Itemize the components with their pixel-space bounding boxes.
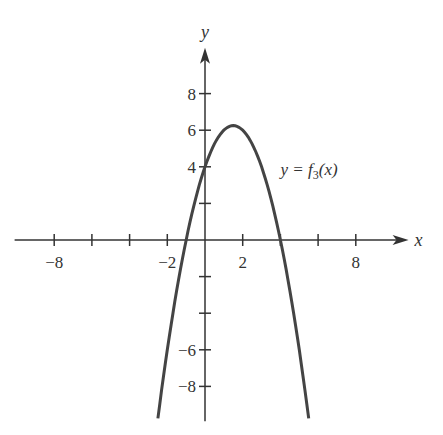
y-tick-label: 8 (188, 85, 197, 104)
x-tick-label: −8 (45, 253, 63, 272)
y-axis-label: y (199, 22, 209, 42)
annotation-prefix: y = f (279, 160, 316, 179)
axes (15, 48, 409, 421)
y-tick-label: −6 (178, 341, 196, 360)
x-axis-label: x (414, 230, 423, 250)
x-tick-label: 2 (238, 253, 247, 272)
x-tick-label: 8 (352, 253, 361, 272)
y-tick-label: 6 (188, 121, 197, 140)
annotation-suffix: (x) (319, 160, 338, 179)
y-tick-label: −8 (178, 377, 196, 396)
curve-annotation: y = f3(x) (279, 160, 338, 182)
y-tick-label: 4 (188, 158, 197, 177)
x-tick-label: −2 (158, 253, 176, 272)
function-graph: −8−228864−6−8 x y y = f3(x) (0, 0, 443, 435)
